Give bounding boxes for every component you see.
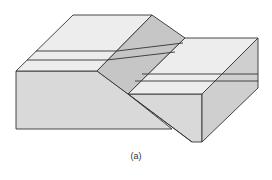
figure-caption: (a) (0, 151, 272, 161)
